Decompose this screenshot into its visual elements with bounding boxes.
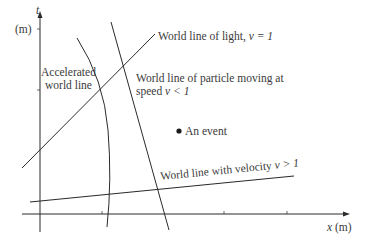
x-axis-unit: (m) — [335, 221, 352, 233]
accelerated-label-1: Accelerated — [41, 66, 96, 78]
event-label: An event — [185, 125, 227, 137]
t-axis-unit: (m) — [15, 23, 32, 35]
superluminal-label-eq: v > 1 — [274, 156, 299, 170]
t-axis-label: t — [36, 4, 39, 16]
particle-world-line — [111, 22, 169, 230]
particle-label-1: World line of particle moving at — [136, 72, 284, 84]
accelerated-label-2: world line — [45, 79, 92, 91]
x-axis-var: x — [327, 221, 332, 233]
particle-label-2: speed v < 1 — [136, 85, 189, 97]
light-label: World line of light, v = 1 — [158, 30, 273, 42]
x-axis-label: x (m) — [327, 221, 352, 233]
particle-label-eq: v < 1 — [165, 85, 189, 97]
light-label-eq: v = 1 — [249, 30, 273, 42]
particle-label-text: speed — [136, 85, 162, 97]
x-axis-arrow-icon — [343, 212, 350, 217]
event-dot-icon — [176, 128, 181, 133]
light-world-line — [22, 34, 155, 168]
light-label-text: World line of light, — [158, 30, 246, 42]
